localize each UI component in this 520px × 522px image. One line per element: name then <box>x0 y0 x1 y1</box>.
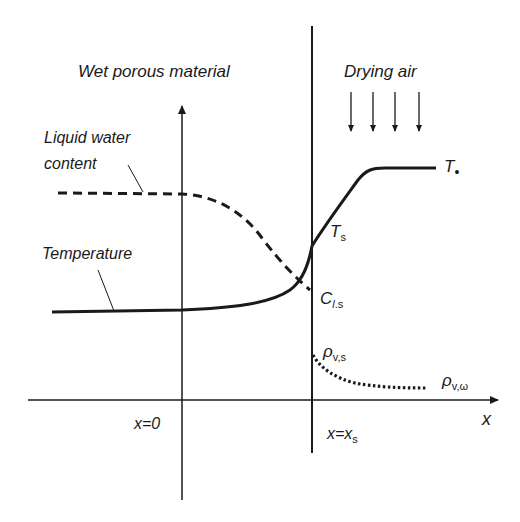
label-T-s: Ts <box>330 223 346 240</box>
label-T-infinity: T• <box>444 158 459 175</box>
label-liquid-water-line1: Liquid water <box>44 130 130 146</box>
label-C-ls: Cl.s <box>320 290 343 307</box>
label-rho-v-s: ρv,s <box>323 343 346 360</box>
C-ls-symbol: C <box>320 289 332 308</box>
temperature-curve <box>52 168 436 312</box>
label-x-axis: x <box>482 410 491 428</box>
label-rho-v-infinity: ρv,ω <box>442 372 468 389</box>
rho-vinf-symbol: ρ <box>442 371 452 390</box>
label-x-equals-xs: x=xs <box>327 426 358 442</box>
label-drying-air: Drying air <box>344 63 417 80</box>
liquid-water-curve <box>58 193 310 290</box>
T-s-subscript: s <box>340 231 346 243</box>
T-s-symbol: T <box>330 222 340 241</box>
T-inf-symbol: T <box>444 157 454 176</box>
label-liquid-water-line2: content <box>44 156 96 172</box>
liquid-water-leader <box>128 165 143 192</box>
temperature-leader <box>98 270 114 311</box>
rho-vinf-subscript: v,ω <box>452 380 468 392</box>
drying-air-arrows <box>351 92 419 131</box>
xs-subscript: s <box>352 433 358 445</box>
rho-vs-symbol: ρ <box>323 342 333 361</box>
label-x-equals-0: x=0 <box>134 416 160 432</box>
label-temperature: Temperature <box>42 246 132 262</box>
rho-vs-subscript: v,s <box>333 351 346 363</box>
x-equals-x-text: x=x <box>327 425 352 442</box>
C-ls-subscript-s: .s <box>335 298 344 310</box>
label-wet-porous-material: Wet porous material <box>78 63 230 80</box>
T-inf-subscript: • <box>454 164 459 180</box>
